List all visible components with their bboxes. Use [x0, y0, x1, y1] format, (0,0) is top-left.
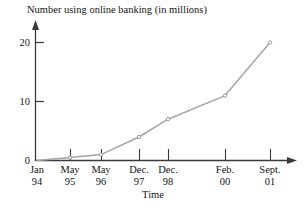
x-tick-label-line2: 00: [203, 176, 247, 188]
data-line: [37, 43, 270, 161]
x-tick-label-line1: Feb.: [216, 164, 234, 175]
x-tick-label-line1: May: [91, 164, 110, 175]
x-tick-label-line1: Sept.: [259, 164, 280, 175]
x-tick-label-line2: 01: [248, 176, 292, 188]
x-tick-label-line1: Jan: [30, 164, 44, 175]
x-tick-label-dec-98: Dec. 98: [146, 164, 190, 187]
y-tick-marks: [36, 43, 44, 102]
x-axis: [36, 157, 298, 164]
x-tick-label-line1: May: [60, 164, 79, 175]
data-markers: [68, 41, 271, 160]
online-banking-line-chart: Number using online banking (in millions…: [0, 0, 306, 213]
x-tick-label-feb-00: Feb. 00: [203, 164, 247, 187]
y-tick-label-10: 10: [8, 96, 30, 107]
y-tick-label-20: 20: [8, 37, 30, 48]
y-axis: [32, 20, 39, 161]
x-tick-label-line2: 98: [146, 176, 190, 188]
x-axis-title: Time: [0, 189, 306, 200]
x-tick-label-line1: Dec.: [158, 164, 178, 175]
x-tick-label-sept-01: Sept. 01: [248, 164, 292, 187]
